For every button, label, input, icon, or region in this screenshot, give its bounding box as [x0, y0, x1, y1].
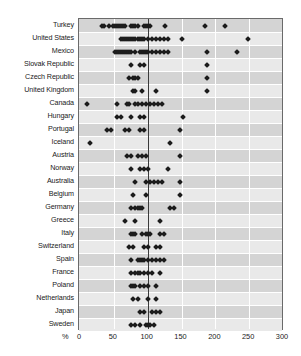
category-label: Japan — [0, 307, 74, 314]
category-label: Austria — [0, 151, 74, 158]
row-separator — [79, 110, 282, 111]
category-label: Portugal — [0, 125, 74, 132]
row-band — [79, 305, 282, 318]
category-label: Norway — [0, 164, 74, 171]
category-label: Iceland — [0, 138, 74, 145]
row-band — [79, 45, 282, 58]
category-label: Mexico — [0, 47, 74, 54]
row-band — [79, 97, 282, 110]
x-tick-label: 100 — [132, 333, 162, 341]
row-separator — [79, 123, 282, 124]
row-separator — [79, 175, 282, 176]
category-label: United Kingdom — [0, 86, 74, 93]
category-label: Italy — [0, 229, 74, 236]
category-label: Czech Republic — [0, 73, 74, 80]
row-band — [79, 292, 282, 305]
gridline — [215, 19, 216, 329]
category-label: Spain — [0, 255, 74, 262]
row-band — [79, 201, 282, 214]
gridline — [114, 19, 115, 329]
row-separator — [79, 227, 282, 228]
row-separator — [79, 279, 282, 280]
category-label: Switzerland — [0, 242, 74, 249]
category-label: Greece — [0, 216, 74, 223]
x-axis-ticks: 050100150200250300 — [78, 330, 283, 350]
scatter-strip-chart: TurkeyUnited StatesMexicoSlovak Republic… — [0, 0, 301, 356]
category-label: Netherlands — [0, 294, 74, 301]
row-separator — [79, 136, 282, 137]
plot-area — [78, 18, 283, 330]
gridline — [182, 19, 183, 329]
row-separator — [79, 149, 282, 150]
category-label: Slovak Republic — [0, 60, 74, 67]
category-label: Belgium — [0, 190, 74, 197]
gridline — [249, 19, 250, 329]
x-tick-label: 200 — [199, 333, 229, 341]
category-label: Turkey — [0, 21, 74, 28]
row-band — [79, 84, 282, 97]
row-separator — [79, 305, 282, 306]
row-band — [79, 162, 282, 175]
category-label: Poland — [0, 281, 74, 288]
row-separator — [79, 97, 282, 98]
row-band — [79, 71, 282, 84]
row-band — [79, 227, 282, 240]
category-label: France — [0, 268, 74, 275]
row-band — [79, 240, 282, 253]
category-label: Canada — [0, 99, 74, 106]
row-separator — [79, 292, 282, 293]
x-tick-label: 300 — [267, 333, 297, 341]
x-tick-label: 50 — [98, 333, 128, 341]
row-separator — [79, 214, 282, 215]
row-separator — [79, 45, 282, 46]
row-band — [79, 279, 282, 292]
category-label: United States — [0, 34, 74, 41]
category-label: Sweden — [0, 320, 74, 327]
row-separator — [79, 253, 282, 254]
row-separator — [79, 32, 282, 33]
row-band — [79, 136, 282, 149]
row-separator — [79, 84, 282, 85]
category-label: Germany — [0, 203, 74, 210]
category-label: Hungary — [0, 112, 74, 119]
x-tick-label: 250 — [233, 333, 263, 341]
category-label: Australia — [0, 177, 74, 184]
row-band — [79, 253, 282, 266]
row-separator — [79, 188, 282, 189]
x-tick-label: 150 — [166, 333, 196, 341]
row-separator — [79, 201, 282, 202]
row-band — [79, 214, 282, 227]
row-separator — [79, 162, 282, 163]
row-separator — [79, 266, 282, 267]
row-separator — [79, 318, 282, 319]
row-separator — [79, 58, 282, 59]
row-band — [79, 58, 282, 71]
row-separator — [79, 240, 282, 241]
row-separator — [79, 71, 282, 72]
row-band — [79, 266, 282, 279]
x-tick-label: 0 — [64, 333, 94, 341]
